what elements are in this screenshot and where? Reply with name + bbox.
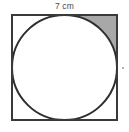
stray-dot-mark	[122, 67, 124, 69]
geometry-figure: 7 cm	[0, 0, 129, 132]
geometry-canvas	[0, 0, 129, 132]
